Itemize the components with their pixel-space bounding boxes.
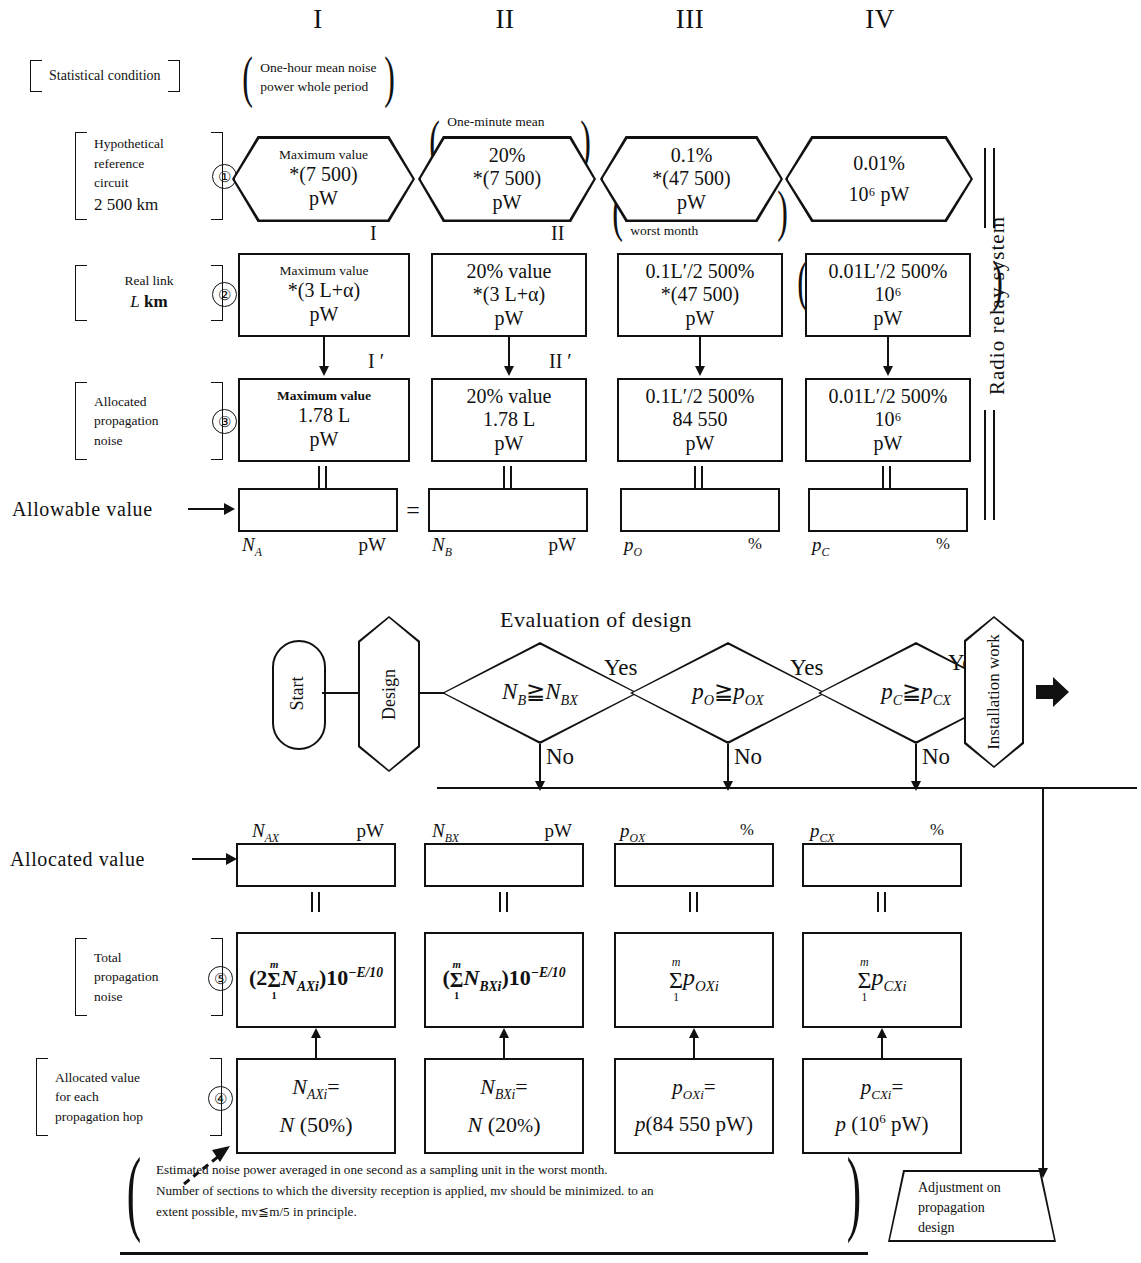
hop-value-box-IV-text: pCXi= p (106 pW) [802, 1058, 962, 1154]
flow-no-line-3 [915, 744, 917, 786]
total-noise-box-III-text: mΣ1pOXi [614, 932, 774, 1028]
side-label-radio-relay-system: Radio relay system [985, 245, 1005, 395]
alloc-noise-box-III-text: 0.1L′/2 500% 84 550 pW [617, 378, 783, 462]
condition-block-I: ( One-hour mean noise power whole period… [238, 46, 1141, 108]
allowable-equals-sign: = [398, 488, 428, 532]
footnote-block: ( Estimated noise power averaged in one … [118, 1160, 870, 1223]
allocated-legend-I: NAXpW [240, 820, 396, 846]
equals-connector-I [318, 466, 328, 488]
total-noise-box-I-text: (2mΣ1NAXi)10−E/10 [236, 932, 396, 1028]
column-roman-I: I [238, 2, 398, 36]
row-label-total-propagation-noise: Total propagation noise [75, 938, 223, 1016]
hop-arrow-line-III [693, 1038, 695, 1060]
flow-decision-1-no-label: No [546, 744, 574, 770]
row-label-allocated-value-each-hop: Allocated value for each propagation hop [36, 1058, 222, 1136]
column-roman-II: II [425, 2, 585, 36]
arrow-head-I [319, 366, 329, 376]
hop-arrow-head-III [689, 1028, 699, 1038]
arrow-line-I [323, 337, 325, 369]
allowable-legend-I: NApW [242, 534, 398, 560]
arrow-head-IV [883, 366, 893, 376]
real-link-box-II-text: 20% value *(3 L+α) pW [431, 253, 587, 337]
real-link-box-I-text: Maximum value *(3 L+α) pW [238, 253, 410, 337]
arrow-head-III [695, 366, 705, 376]
arrow-line-II [508, 337, 510, 369]
flow-start-label: Start [272, 640, 322, 746]
allowable-legend-IV: pC% [812, 534, 968, 560]
equals-connector-III [694, 466, 704, 488]
allowable-value-box-IV[interactable] [808, 488, 968, 532]
arrow-line-III [699, 337, 701, 369]
flow-no-arrow-3 [911, 781, 921, 791]
flow-link-start-design [322, 692, 360, 694]
allocated-legend-III: pOX% [616, 820, 772, 846]
arrow-line-IV [887, 337, 889, 369]
step-number-3: ③ [212, 409, 237, 434]
hrc-hex-II-text: 20% *(7 500) pW [418, 136, 596, 222]
flow-feedback-right-vertical [1042, 787, 1044, 1173]
flow-decision-3-no-label: No [922, 744, 950, 770]
hop-arrow-line-I [315, 1038, 317, 1060]
hop-arrow-head-I [311, 1028, 321, 1038]
flow-no-line-2 [727, 744, 729, 786]
flow-no-line-1 [539, 744, 541, 786]
link-tag-I: I [370, 222, 377, 245]
allocated-value-arrow-line [192, 858, 228, 860]
alloc-noise-box-II-text: 20% value 1.78 L pW [431, 378, 587, 462]
alloc-tag-II-prime: II ′ [549, 350, 572, 373]
allocated-equals-connector-IV [877, 892, 887, 912]
allowable-value-box-I[interactable] [238, 488, 398, 532]
statistical-condition-label: Statistical condition [30, 60, 180, 92]
step-number-2: ② [212, 282, 237, 307]
flow-link-design-d1 [420, 692, 444, 694]
allocated-value-box-I[interactable] [236, 843, 396, 887]
flow-feedback-right-drop [1135, 787, 1137, 789]
hop-arrow-line-II [503, 1038, 505, 1060]
allocated-value-box-II[interactable] [424, 843, 584, 887]
allocated-legend-II: NBXpW [428, 820, 584, 846]
hop-value-box-II-text: NBXi= N (20%) [424, 1058, 584, 1154]
flow-design-label: Design [358, 616, 420, 772]
hop-arrow-line-IV [881, 1038, 883, 1060]
allowable-legend-III: pO% [624, 534, 780, 560]
equals-connector-IV [882, 466, 892, 488]
allocated-equals-connector-I [311, 892, 321, 912]
row-label-allocated-propagation-noise: Allocated propagation noise [75, 382, 223, 460]
hrc-hex-I-text: Maximum value *(7 500) pW [232, 136, 415, 222]
hop-arrow-head-IV [877, 1028, 887, 1038]
allowable-legend-II: NBpW [432, 534, 588, 560]
flow-decision-2-no-label: No [734, 744, 762, 770]
step-number-4: ④ [208, 1086, 233, 1111]
allocated-equals-connector-II [499, 892, 509, 912]
hop-arrow-head-II [499, 1028, 509, 1038]
link-tag-II: II [551, 222, 564, 245]
flow-adjustment-label: Adjustment on propagation design [918, 1178, 1058, 1238]
hop-value-box-I-text: NAXi= N (50%) [236, 1058, 396, 1154]
allowable-value-box-II[interactable] [428, 488, 588, 532]
row-label-real-link: Real link L km [75, 265, 223, 321]
row-label-hypothetical-reference-circuit: Hypothetical reference circuit 2 500 km [75, 132, 223, 220]
real-link-box-IV-text: 0.01L′/2 500% 10⁶ pW [805, 253, 971, 337]
hrc-hex-III-text: 0.1% *(47 500) pW [600, 136, 783, 222]
flow-output-arrow-icon [1036, 676, 1070, 708]
allocated-equals-connector-III [689, 892, 699, 912]
allowable-value-label: Allowable value [12, 498, 153, 521]
allocated-value-box-IV[interactable] [802, 843, 962, 887]
allocated-value-label: Allocated value [10, 848, 145, 871]
column-roman-IV: IV [800, 2, 960, 36]
flow-feedback-bus-right-seg [915, 787, 1044, 789]
bottom-divider [120, 1252, 868, 1255]
alloc-noise-box-I-text: Maximum value 1.78 L pW [238, 378, 410, 462]
allocated-legend-IV: pCX% [806, 820, 962, 846]
allocated-value-box-III[interactable] [614, 843, 774, 887]
alloc-tag-I-prime: I ′ [368, 350, 384, 373]
column-roman-III: III [610, 2, 770, 36]
flow-feedback-left-drop [437, 787, 439, 789]
arrow-head-II [504, 366, 514, 376]
flow-no-arrow-2 [723, 781, 733, 791]
flowchart-title: Evaluation of design [500, 607, 692, 633]
hop-value-box-III-text: pOXi= p(84 550 pW) [614, 1058, 774, 1154]
flow-no-arrow-1 [535, 781, 545, 791]
allowable-value-box-III[interactable] [620, 488, 780, 532]
